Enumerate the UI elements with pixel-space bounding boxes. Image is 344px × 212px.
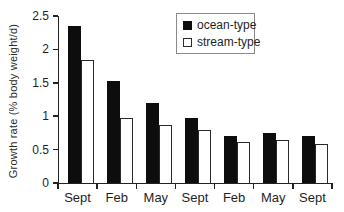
y-tick (53, 115, 58, 117)
bar-stream-type (81, 60, 94, 183)
x-category-label: May (136, 190, 175, 205)
legend-label-ocean-type: ocean-type (197, 18, 256, 32)
x-category-label: Sept (175, 190, 214, 205)
legend-item-ocean-type: ocean-type (183, 18, 250, 32)
x-category-label: Sept (293, 190, 332, 205)
bar-stream-type (237, 142, 250, 183)
bar-ocean-type (185, 118, 198, 183)
bar-ocean-type (146, 103, 159, 183)
y-tick (53, 82, 58, 84)
legend: ocean-type stream-type (176, 13, 255, 54)
x-tick (331, 184, 333, 189)
legend-label-stream-type: stream-type (197, 35, 260, 49)
x-category-label: May (254, 190, 293, 205)
x-tick (57, 184, 59, 189)
bar-ocean-type (68, 26, 81, 183)
y-tick (53, 149, 58, 151)
y-tick-label: 1 (16, 108, 49, 124)
y-tick-label: 0.5 (16, 142, 49, 158)
y-tick (53, 49, 58, 51)
y-tick-label: 1.5 (16, 75, 49, 91)
black-square-swatch-icon (183, 21, 192, 30)
x-tick (214, 184, 216, 189)
x-category-label: Sept (58, 190, 97, 205)
bar-stream-type (315, 144, 328, 183)
bar-stream-type (159, 125, 172, 183)
y-tick-label: 2.5 (16, 8, 49, 24)
bar-ocean-type (263, 133, 276, 183)
x-tick (292, 184, 294, 189)
x-tick (253, 184, 255, 189)
growth-rate-bar-chart: Growth rate (% body weight/d) 00.511.522… (0, 0, 344, 212)
bar-stream-type (120, 118, 133, 183)
bar-stream-type (198, 130, 211, 183)
y-tick-label: 0 (16, 175, 49, 191)
y-tick (53, 15, 58, 17)
bar-stream-type (276, 140, 289, 183)
bar-ocean-type (302, 136, 315, 183)
x-tick (175, 184, 177, 189)
bar-ocean-type (107, 81, 120, 183)
white-square-swatch-icon (183, 38, 192, 47)
y-tick-label: 2 (16, 41, 49, 57)
x-tick (96, 184, 98, 189)
legend-item-stream-type: stream-type (183, 35, 250, 49)
x-category-label: Feb (97, 190, 136, 205)
x-category-label: Feb (215, 190, 254, 205)
bar-ocean-type (224, 136, 237, 183)
x-tick (136, 184, 138, 189)
